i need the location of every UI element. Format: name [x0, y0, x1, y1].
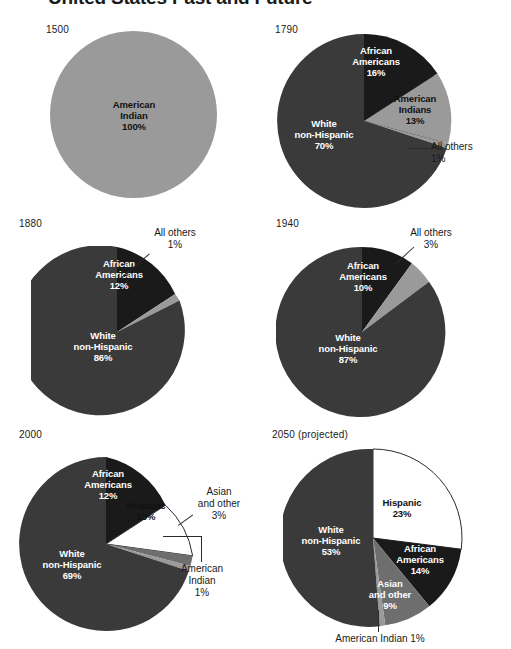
year-label-1940: 1940: [276, 218, 299, 229]
year-label-1880: 1880: [19, 218, 42, 229]
callout-american-indian-2050: American Indian 1%: [302, 633, 458, 645]
slice-label-african-americans-1790: African Americans 16%: [331, 45, 421, 78]
callout-asian-and-other-2000: Asian and other 3%: [182, 486, 256, 522]
slice-label-hispanic-2000: Hispanic 13%: [110, 500, 182, 522]
leader-line-american-indian-2000-v: [201, 536, 202, 562]
slice-label-asian-and-other-2050: Asian and other 9%: [347, 578, 433, 611]
year-label-2050: 2050 (projected): [272, 429, 348, 440]
callout-american-indian-2000: American Indian 1%: [165, 563, 239, 599]
pie-panel-1500: 1500 American Indian 100%: [0, 0, 255, 210]
slice-label-american-indians-1790: American Indians 13%: [372, 93, 458, 126]
callout-all-others-1940: All others 3%: [395, 227, 467, 251]
figure-root: United States Past and Future 1500 Ameri…: [0, 0, 511, 649]
callout-all-others-1880: All others 1%: [140, 227, 210, 251]
year-label-2000: 2000: [19, 429, 42, 440]
pie-panel-1790: 1790 African Americans 16% American Indi…: [255, 0, 511, 210]
slice-label-hispanic-2050: Hispanic 23%: [360, 497, 444, 519]
pie-panel-1940: 1940 African Americans 10% White non-His…: [255, 210, 511, 420]
leader-line-american-indian-2000-h: [163, 536, 201, 537]
leader-line-american-indian-2050: [378, 610, 379, 632]
slice-label-african-americans-2000: African Americans 12%: [62, 468, 154, 501]
callout-all-others-1790: All others 1%: [431, 141, 501, 165]
pie-panel-1880: 1880 African Americans 12% White non-His…: [0, 210, 255, 420]
year-label-1500: 1500: [46, 24, 69, 35]
slice-label-african-americans-1880: African Americans 12%: [73, 258, 165, 291]
slice-label-african-americans-1940: African Americans 10%: [317, 260, 409, 293]
pie-panel-2050: 2050 (projected) Hispanic 23% African Am…: [255, 420, 511, 649]
leader-line-all-others-1790: [407, 148, 429, 149]
slice-label-white-non-hispanic-1880: White non-Hispanic 86%: [55, 330, 151, 363]
pie-panel-2000: 2000 African Americans 12% Hispanic 13% …: [0, 420, 255, 649]
slice-label-white-non-hispanic-1790: White non-Hispanic 70%: [278, 118, 370, 151]
slice-label-american-indian-1500: American Indian 100%: [93, 99, 175, 132]
slice-label-white-non-hispanic-2000: White non-Hispanic 69%: [22, 548, 122, 581]
slice-label-white-non-hispanic-2050: White non-Hispanic 53%: [281, 524, 381, 557]
slice-label-white-non-hispanic-1940: White non-Hispanic 87%: [300, 332, 396, 365]
slice-label-african-americans-2050: African Americans 14%: [373, 543, 467, 576]
